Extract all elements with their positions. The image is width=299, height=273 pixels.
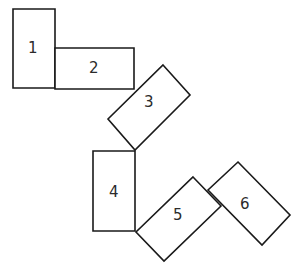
figure-canvas: 1 2 3 4 5 6 xyxy=(0,0,299,273)
rectangle-label-4: 4 xyxy=(109,183,119,201)
rectangle-label-2: 2 xyxy=(89,59,99,77)
rectangle-label-1: 1 xyxy=(28,39,38,57)
rectangle-chain-diagram: 1 2 3 4 5 6 xyxy=(0,0,299,273)
rectangle-label-3: 3 xyxy=(144,93,154,111)
rectangle-label-5: 5 xyxy=(173,206,183,224)
rectangle-label-6: 6 xyxy=(240,195,250,213)
